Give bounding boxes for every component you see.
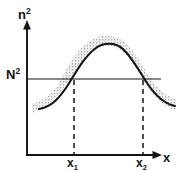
plot-canvas bbox=[0, 0, 176, 171]
refractive-index-curve bbox=[39, 44, 175, 109]
x1-tick-label: x1 bbox=[67, 157, 78, 169]
x2-tick-label-base: x bbox=[136, 156, 143, 170]
x-axis-label: x bbox=[163, 151, 170, 164]
threshold-label-exponent: 2 bbox=[15, 66, 20, 76]
y-axis-label-base: n bbox=[18, 7, 26, 22]
y-axis-label: n2 bbox=[18, 8, 31, 21]
refractive-index-profile-figure: n2 N2 x x1 x2 bbox=[0, 0, 176, 171]
threshold-label: N2 bbox=[6, 68, 20, 81]
x-axis-label-text: x bbox=[163, 150, 170, 165]
y-axis-label-exponent: 2 bbox=[26, 6, 31, 16]
x1-tick-label-subscript: 1 bbox=[74, 163, 78, 171]
x2-tick-label-subscript: 2 bbox=[143, 163, 147, 171]
x2-tick-label: x2 bbox=[136, 157, 147, 169]
y-axis bbox=[23, 20, 31, 156]
threshold-label-base: N bbox=[6, 67, 15, 82]
x1-tick-label-base: x bbox=[67, 156, 74, 170]
